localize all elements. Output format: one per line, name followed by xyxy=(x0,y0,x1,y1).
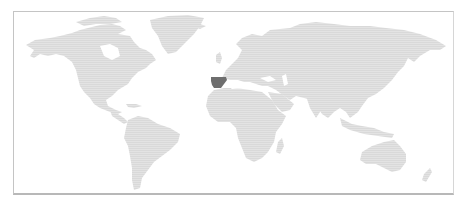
region-southeast-asia xyxy=(340,118,394,138)
region-australia[interactable] xyxy=(360,140,406,172)
mediterranean-sea xyxy=(228,84,262,89)
region-south-america[interactable] xyxy=(124,116,180,190)
world-map xyxy=(0,0,467,204)
region-spain[interactable] xyxy=(211,77,227,88)
region-greenland[interactable] xyxy=(150,15,204,54)
region-north-america[interactable] xyxy=(26,24,156,114)
region-hudson-arctic xyxy=(76,16,122,26)
region-uk xyxy=(216,52,222,64)
region-caribbean xyxy=(126,104,142,108)
region-madagascar xyxy=(276,138,284,154)
region-new-zealand xyxy=(422,168,432,182)
